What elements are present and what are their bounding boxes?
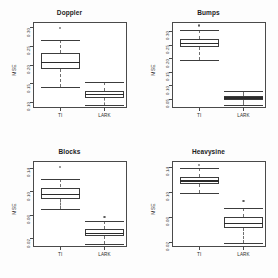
- boxplot-lark: [139, 139, 278, 278]
- upper-whisker: [243, 208, 245, 217]
- figure-canvas: DopplerMSE0.100.150.200.250.30TILARKBump…: [0, 0, 278, 278]
- upper-whisker-cap: [224, 91, 263, 92]
- boxplot-lark: [139, 0, 278, 139]
- outlier-point: [242, 200, 244, 202]
- chart-panel-blocks: BlocksMSE0.020.060.100.14TILARK: [0, 139, 139, 278]
- lower-whisker-cap: [85, 105, 124, 106]
- upper-whisker-cap: [85, 221, 124, 222]
- lower-whisker-cap: [85, 244, 124, 245]
- median-line: [85, 94, 124, 95]
- lower-whisker-cap: [224, 105, 263, 106]
- lower-whisker-cap: [224, 243, 263, 244]
- boxplot-lark: [0, 0, 139, 139]
- chart-panel-doppler: DopplerMSE0.100.150.200.250.30TILARK: [0, 0, 139, 139]
- chart-panel-heavysine: HeavysineMSE0.020.060.100.14TILARK: [139, 139, 278, 278]
- median-line: [224, 223, 263, 224]
- upper-whisker-cap: [224, 208, 263, 209]
- lower-whisker: [104, 98, 106, 105]
- upper-whisker-cap: [85, 82, 124, 83]
- chart-panel-bumps: BumpsMSE0.050.100.150.200.250.30TILARK: [139, 0, 278, 139]
- upper-whisker: [104, 82, 106, 91]
- boxplot-lark: [0, 139, 139, 278]
- outlier-point: [103, 216, 105, 218]
- median-line: [85, 233, 124, 234]
- upper-whisker: [104, 221, 106, 229]
- lower-whisker: [243, 228, 245, 243]
- lower-whisker: [104, 236, 106, 244]
- median-line: [224, 97, 263, 98]
